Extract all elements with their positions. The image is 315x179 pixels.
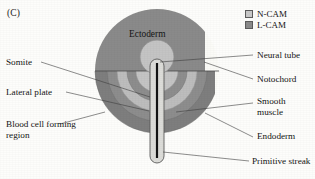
legend: N-CAM L-CAM <box>245 9 287 30</box>
callout-primitive-streak: Primitive streak <box>252 156 310 167</box>
callout-blood-cell-forming-region: Blood cell forming region <box>6 119 78 140</box>
callout-notochord: Notochord <box>257 74 296 85</box>
callout-endoderm: Endoderm <box>257 131 295 142</box>
legend-swatch-icon-n-cam <box>245 10 253 18</box>
callout-smooth-muscle: Smooth muscle <box>257 96 309 117</box>
callout-lateral-plate: Lateral plate <box>6 87 52 98</box>
leader-endoderm <box>205 113 253 137</box>
legend-item-n-cam: N-CAM <box>245 9 287 19</box>
panel-label: (C) <box>7 8 20 18</box>
leader-primitive-streak <box>163 152 249 161</box>
callout-somite: Somite <box>6 57 32 68</box>
diagram-label-ectoderm: Ectoderm <box>129 29 165 39</box>
legend-item-l-cam: L-CAM <box>245 20 287 30</box>
legend-label-l-cam: L-CAM <box>257 20 286 30</box>
figure-panel-c: (C) N-CAM L-CAM Ectoderm Somite Lateral … <box>0 0 315 179</box>
legend-swatch-icon-l-cam <box>245 21 253 29</box>
callout-neural-tube: Neural tube <box>257 50 300 61</box>
legend-label-n-cam: N-CAM <box>257 9 287 19</box>
